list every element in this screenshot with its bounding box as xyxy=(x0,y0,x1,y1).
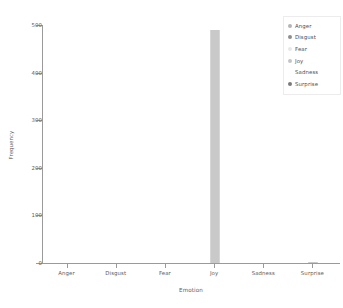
bar xyxy=(308,262,318,263)
bar xyxy=(210,30,220,263)
legend-item[interactable]: Surprise xyxy=(287,78,338,90)
legend-label: Joy xyxy=(295,58,303,64)
chart-figure: 0100200300400500 AngerDisgustFearJoySadn… xyxy=(0,0,343,308)
legend-label: Anger xyxy=(295,23,312,29)
legend-marker-circle-icon xyxy=(288,59,292,63)
legend-marker-circle-icon xyxy=(288,24,292,28)
chart-legend: AngerDisgustFearJoySadnessSurprise xyxy=(283,16,341,95)
legend-label: Surprise xyxy=(295,81,318,87)
legend-label: Disgust xyxy=(295,34,316,40)
legend-item[interactable]: Fear xyxy=(287,43,338,55)
legend-label: Sadness xyxy=(295,69,318,75)
legend-item[interactable]: Anger xyxy=(287,20,338,32)
legend-marker-circle-icon xyxy=(288,70,292,74)
legend-marker-circle-icon xyxy=(288,82,292,86)
x-axis-title: Emotion xyxy=(42,287,340,293)
legend-item[interactable]: Joy xyxy=(287,55,338,67)
legend-item[interactable]: Disgust xyxy=(287,32,338,44)
legend-marker-circle-icon xyxy=(288,47,292,51)
legend-label: Fear xyxy=(295,46,307,52)
legend-item[interactable]: Sadness xyxy=(287,66,338,78)
legend-marker-circle-icon xyxy=(288,35,292,39)
y-axis-title: Frequency xyxy=(8,115,14,175)
